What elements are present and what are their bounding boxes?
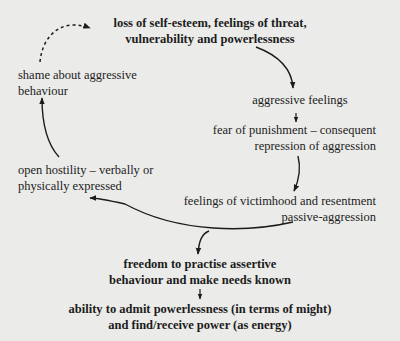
node-text: behaviour: [18, 83, 137, 99]
node-aggressive-feelings: aggressive feelings: [250, 92, 350, 108]
node-text: repression of aggression: [200, 138, 376, 154]
node-text: loss of self-esteem, feelings of threat,: [95, 15, 325, 31]
node-text: and find/receive power (as energy): [40, 317, 360, 333]
arrow-shame-to-loss-dashed: [40, 25, 90, 62]
arrow-loss-to-aggressive-feelings: [256, 47, 293, 88]
node-text: open hostility – verbally or: [18, 162, 153, 178]
node-ability-admit-powerlessness: ability to admit powerlessness (in terms…: [40, 301, 360, 333]
aggression-cycle-diagram: loss of self-esteem, feelings of threat,…: [0, 0, 400, 341]
node-text: physically expressed: [18, 178, 153, 194]
node-text: feelings of victimhood and resentment: [150, 193, 376, 209]
node-victimhood: feelings of victimhood and resentment pa…: [150, 193, 376, 225]
node-open-hostility: open hostility – verbally or physically …: [18, 162, 153, 194]
node-text: ability to admit powerlessness (in terms…: [40, 301, 360, 317]
node-text: shame about aggressive: [18, 67, 137, 83]
node-text: vulnerability and powerlessness: [95, 31, 325, 47]
arrow-victimhood-to-freedom: [198, 231, 209, 254]
node-text: fear of punishment – consequent: [200, 122, 376, 138]
node-text: passive-aggression: [150, 209, 376, 225]
node-freedom-assertive: freedom to practise assertive behaviour …: [100, 256, 300, 288]
arrow-hostility-to-shame: [42, 98, 59, 157]
node-loss-of-self-esteem: loss of self-esteem, feelings of threat,…: [95, 15, 325, 47]
node-text: behaviour and make needs known: [100, 272, 300, 288]
node-shame: shame about aggressive behaviour: [18, 67, 137, 99]
node-text: aggressive feelings: [250, 92, 350, 108]
node-text: freedom to practise assertive: [100, 256, 300, 272]
arrow-fear-to-victimhood: [294, 156, 299, 191]
node-fear-of-punishment: fear of punishment – consequent repressi…: [200, 122, 376, 154]
